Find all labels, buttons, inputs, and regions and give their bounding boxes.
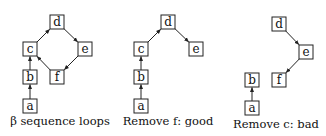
- node-label: a: [248, 101, 255, 115]
- node-e: e: [78, 42, 92, 56]
- edge-e-to-f: [64, 56, 78, 70]
- edge-c-to-d: [148, 29, 161, 42]
- node-e: e: [189, 42, 203, 56]
- node-label: c: [27, 42, 34, 56]
- panel-remove-c-bad: defbaRemove c: bad: [233, 17, 319, 131]
- node-label: d: [53, 15, 61, 29]
- node-b: b: [23, 70, 37, 84]
- edge-e-to-f: [286, 59, 299, 73]
- node-a: a: [245, 101, 259, 115]
- edge-c-to-d: [37, 29, 50, 42]
- node-c: c: [134, 42, 148, 56]
- node-f: f: [50, 70, 64, 84]
- node-a: a: [23, 99, 37, 113]
- edge-f-to-c: [37, 56, 50, 70]
- edge-d-to-e: [64, 29, 78, 42]
- panel-caption: Remove f: good: [123, 114, 214, 128]
- edge-d-to-e: [286, 31, 299, 45]
- diagram-canvas: dcebfaβ sequence loops dcebaRemove f: go…: [0, 0, 326, 136]
- node-d: d: [161, 15, 175, 29]
- node-b: b: [134, 70, 148, 84]
- panel-caption: Remove c: bad: [233, 117, 319, 131]
- node-b: b: [245, 73, 259, 87]
- node-e: e: [299, 45, 313, 59]
- node-label: a: [26, 99, 33, 113]
- panel-caption: β sequence loops: [10, 114, 110, 128]
- node-c: c: [23, 42, 37, 56]
- node-label: d: [164, 15, 172, 29]
- panel-remove-f-good: dcebaRemove f: good: [123, 15, 214, 128]
- node-a: a: [134, 99, 148, 113]
- node-label: e: [192, 42, 199, 56]
- node-label: a: [137, 99, 144, 113]
- node-d: d: [50, 15, 64, 29]
- node-label: b: [137, 70, 145, 84]
- node-d: d: [272, 17, 286, 31]
- node-label: e: [302, 45, 309, 59]
- node-label: e: [81, 42, 88, 56]
- node-label: d: [275, 17, 283, 31]
- edge-d-to-e: [175, 29, 189, 42]
- node-label: c: [138, 42, 145, 56]
- node-label: b: [248, 73, 256, 87]
- panel-beta-sequence-loops: dcebfaβ sequence loops: [10, 15, 110, 128]
- node-label: b: [26, 70, 34, 84]
- node-f: f: [272, 73, 286, 87]
